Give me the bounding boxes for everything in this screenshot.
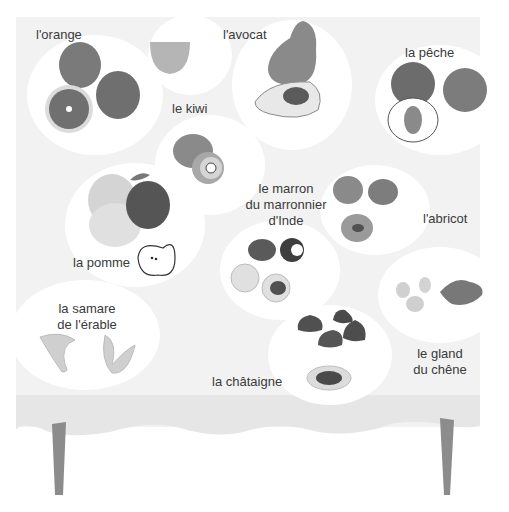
- fruit-table-illustration: l'orange l'avocat la pêche le kiwi le ma…: [0, 0, 509, 512]
- label-apple: la pomme: [73, 255, 130, 271]
- table-leg-left: [52, 422, 66, 495]
- label-peach: la pêche: [405, 45, 454, 61]
- label-horse-chestnut-line1: le marron: [236, 181, 336, 197]
- label-orange: l'orange: [36, 27, 82, 43]
- label-samara-line1: la samare: [52, 301, 122, 317]
- tablecloth-edge: [16, 395, 480, 435]
- label-acorn-line2: du chêne: [410, 362, 470, 378]
- label-chestnut: la châtaigne: [212, 374, 282, 390]
- label-samara: la samare de l'érable: [52, 301, 122, 333]
- label-samara-line2: de l'érable: [52, 317, 122, 333]
- label-horse-chestnut-line2: du marronnier: [236, 197, 336, 213]
- label-horse-chestnut-line3: d'Inde: [236, 213, 336, 229]
- label-horse-chestnut: le marron du marronnier d'Inde: [236, 181, 336, 229]
- label-acorn-line1: le gland: [410, 346, 470, 362]
- label-kiwi: le kiwi: [172, 101, 207, 117]
- table-leg-right: [440, 418, 454, 495]
- label-avocado: l'avocat: [223, 27, 267, 43]
- label-acorn: le gland du chêne: [410, 346, 470, 378]
- label-apricot: l'abricot: [423, 211, 467, 227]
